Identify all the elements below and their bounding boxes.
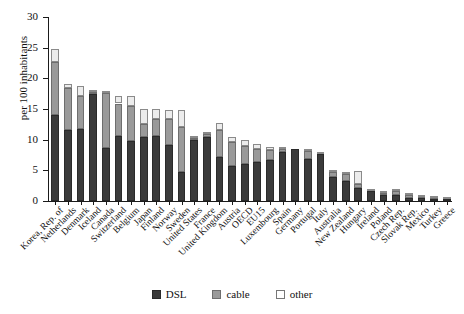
plot-area: 051015202530 xyxy=(48,17,452,201)
y-axis-tick-label: 5 xyxy=(0,164,38,175)
y-axis-tick xyxy=(43,17,48,18)
x-axis-tick xyxy=(55,201,56,205)
bar-segment-other xyxy=(127,96,135,106)
y-axis-line xyxy=(48,17,49,201)
y-axis-tick-label: 20 xyxy=(0,72,38,83)
y-axis-tick xyxy=(43,78,48,79)
bar-segment-cable xyxy=(178,127,186,172)
bar-segment-other xyxy=(228,137,236,141)
y-axis-tick-label: 30 xyxy=(0,11,38,22)
legend-swatch-cable-icon xyxy=(212,290,221,299)
bar-segment-cable xyxy=(266,150,274,160)
bar-segment-other xyxy=(266,147,274,150)
bar-segment-other xyxy=(165,110,173,119)
legend-label: DSL xyxy=(166,288,187,300)
y-axis-tick xyxy=(43,140,48,141)
bar-segment-other xyxy=(342,172,350,174)
bar-segment-other xyxy=(152,109,160,119)
legend-item-cable[interactable]: cable xyxy=(212,288,249,300)
bar-segment-cable xyxy=(190,138,198,140)
bar-segment-cable xyxy=(279,149,287,151)
bar-segment-cable xyxy=(304,151,312,158)
bar-segment-other xyxy=(51,49,59,62)
y-axis-tick xyxy=(43,201,48,202)
bar-segment-other xyxy=(178,110,186,127)
legend-swatch-other-icon xyxy=(276,290,285,299)
bar-segment-other xyxy=(329,170,337,172)
bar-segment-cable xyxy=(127,106,135,141)
y-axis-tick-label: 15 xyxy=(0,103,38,114)
y-axis-tick xyxy=(43,48,48,49)
bar-segment-other xyxy=(115,96,123,104)
bar-segment-cable xyxy=(216,130,224,157)
bar-segment-cable xyxy=(253,149,261,162)
y-axis-tick-label: 25 xyxy=(0,42,38,53)
bar-segment-cable xyxy=(241,146,249,164)
bar-segment-cable xyxy=(152,119,160,136)
y-axis-tick xyxy=(43,109,48,110)
bar-segment-other xyxy=(102,91,110,93)
bar-segment-other xyxy=(203,132,211,134)
legend-swatch-dsl-icon xyxy=(152,290,161,299)
legend-item-dsl[interactable]: DSL xyxy=(152,288,187,300)
legend-label: other xyxy=(290,288,313,300)
legend-item-other[interactable]: other xyxy=(276,288,313,300)
bar-segment-dsl xyxy=(64,130,72,201)
bar-segment-cable xyxy=(89,92,97,94)
bar-segment-cable xyxy=(77,96,85,129)
broadband-stacked-bar-chart: per 100 inhabitants 051015202530 DSLcabl… xyxy=(0,0,464,314)
legend-label: cable xyxy=(226,288,249,300)
bar-segment-other xyxy=(216,123,224,130)
bar-segment-other xyxy=(317,152,325,154)
bar-segment-cable xyxy=(115,104,123,137)
bar-norway xyxy=(165,110,173,201)
bar-segment-other xyxy=(279,147,287,149)
y-axis-tick-label: 0 xyxy=(0,195,38,206)
bar-korea-rep-of xyxy=(51,49,59,201)
bar-netherlands xyxy=(64,84,72,201)
y-axis-tick-label: 10 xyxy=(0,134,38,145)
chart-legend: DSLcableother xyxy=(0,288,464,300)
bar-segment-cable xyxy=(51,62,59,115)
bar-segment-other xyxy=(64,84,72,88)
bar-segment-cable xyxy=(329,172,337,177)
bar-segment-cable xyxy=(203,134,211,138)
bar-segment-other xyxy=(253,144,261,149)
bar-segment-other xyxy=(190,136,198,138)
bar-segment-other xyxy=(140,109,148,124)
bar-segment-other xyxy=(77,86,85,96)
bar-segment-other xyxy=(89,90,97,92)
bar-segment-cable xyxy=(64,88,72,130)
bar-segment-cable xyxy=(165,119,173,145)
bar-segment-other xyxy=(304,149,312,151)
y-axis-tick xyxy=(43,170,48,171)
bar-segment-cable xyxy=(102,93,110,148)
bar-segment-dsl xyxy=(51,115,59,201)
bar-segment-cable xyxy=(228,142,236,167)
bar-segment-cable xyxy=(140,124,148,137)
bar-segment-other xyxy=(241,140,249,146)
bar-segment-cable xyxy=(342,174,350,181)
